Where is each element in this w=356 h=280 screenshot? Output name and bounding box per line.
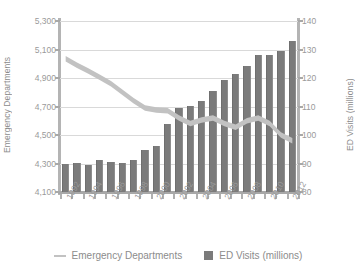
square-swatch-icon [204,251,213,260]
right-tick-label: 80 [302,187,336,197]
right-tickmark [298,20,303,22]
left-axis-title: Emergency Departments [2,30,12,180]
legend-item-emergency-departments: Emergency Departments [54,250,183,261]
right-tick-label: 110 [302,102,336,112]
legend-label-ed-visits: ED Visits (millions) [219,250,302,261]
right-tickmark [298,49,303,51]
left-tick-label: 4,500 [12,130,56,140]
right-tickmark [298,77,303,79]
left-axis-tick-labels: 5,3005,1004,9004,7004,5004,3004,100 [12,0,56,280]
line-swatch-icon [54,255,66,257]
left-tick-label: 4,900 [12,73,56,83]
plot-area [60,21,298,192]
chart-container: Emergency Departments ED Visits (million… [0,0,356,280]
x-axis-tick-labels: 1992199419961998200020022004200620082010… [60,196,298,242]
left-tick-label: 5,300 [12,16,56,26]
right-axis-tick-labels: 1401301201101009080 [302,0,336,280]
line-series-emergency-departments [60,21,298,192]
right-tick-label: 90 [302,159,336,169]
left-tick-label: 5,100 [12,45,56,55]
right-tick-label: 100 [302,130,336,140]
chart-legend: Emergency Departments ED Visits (million… [0,250,356,261]
right-axis-title: ED Visits (millions) [345,45,355,185]
right-tickmark [298,134,303,136]
right-tick-label: 130 [302,45,336,55]
legend-item-ed-visits: ED Visits (millions) [204,250,302,261]
right-tickmark [298,163,303,165]
right-tick-label: 140 [302,16,336,26]
left-tick-label: 4,300 [12,159,56,169]
left-tick-label: 4,100 [12,187,56,197]
left-tick-label: 4,700 [12,102,56,112]
right-tickmark [298,106,303,108]
legend-label-emergency-departments: Emergency Departments [72,250,183,261]
right-tick-label: 120 [302,73,336,83]
